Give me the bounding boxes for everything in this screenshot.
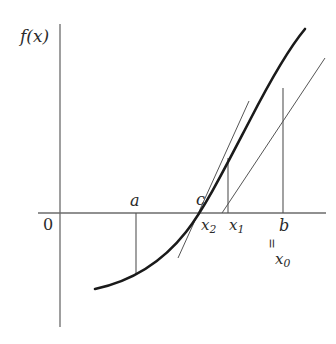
point-c-label: c: [196, 192, 205, 208]
newton-method-figure: f(x) 0 a c x2 x1 b = x0: [0, 0, 336, 344]
point-a-label: a: [130, 193, 140, 209]
origin-label: 0: [43, 217, 53, 233]
point-b-label: b: [279, 218, 289, 234]
figure-canvas: [0, 0, 336, 344]
function-curve: [95, 29, 305, 289]
point-x1-subscript: 1: [237, 223, 244, 236]
point-x2-subscript: 2: [209, 223, 216, 236]
point-x1-label: x1: [229, 218, 244, 236]
secant-line-b: [222, 58, 325, 213]
point-x2-label: x2: [201, 218, 216, 236]
point-x0-label: x0: [275, 252, 290, 270]
equals-sign-rotated: =: [266, 238, 279, 249]
point-x0-subscript: 0: [283, 257, 290, 270]
y-axis-label: f(x): [20, 28, 49, 45]
